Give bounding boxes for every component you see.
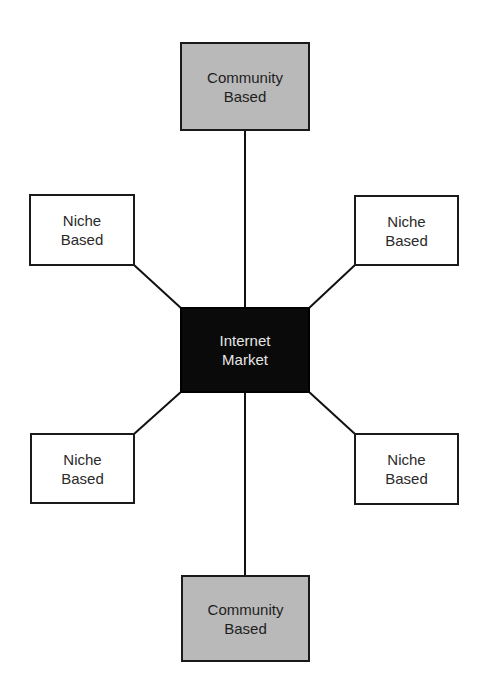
center-label-line2: Market	[222, 350, 268, 369]
node-label-line2: Based	[61, 469, 104, 488]
edge-center-to-niche-top-left	[134, 265, 182, 309]
niche-based-bottom-left-node: Niche Based	[30, 433, 135, 504]
niche-based-top-left-node: Niche Based	[29, 194, 135, 266]
node-label-line1: Community	[208, 600, 284, 619]
node-label-line1: Niche	[63, 211, 101, 230]
edge-center-to-niche-bottom-right	[308, 391, 355, 434]
node-label-line2: Based	[61, 230, 104, 249]
center-label-line1: Internet	[220, 331, 271, 350]
node-label-line1: Niche	[63, 450, 101, 469]
internet-market-center-node: Internet Market	[180, 307, 310, 393]
edge-center-to-niche-bottom-left	[134, 391, 182, 434]
edge-center-to-niche-top-right	[308, 265, 355, 309]
node-label-line2: Based	[224, 87, 267, 106]
node-label-line1: Niche	[387, 450, 425, 469]
node-label-line2: Based	[224, 619, 267, 638]
node-label-line2: Based	[385, 469, 428, 488]
community-based-top-node: Community Based	[180, 42, 310, 131]
niche-based-top-right-node: Niche Based	[354, 195, 459, 266]
node-label-line2: Based	[385, 231, 428, 250]
node-label-line1: Niche	[387, 212, 425, 231]
node-label-line1: Community	[207, 68, 283, 87]
niche-based-bottom-right-node: Niche Based	[354, 433, 459, 505]
community-based-bottom-node: Community Based	[181, 575, 310, 662]
